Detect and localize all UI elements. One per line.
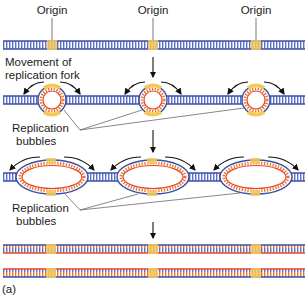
- large-bubble-3: [220, 158, 292, 196]
- large-bubbles: [3, 157, 305, 196]
- origin-marker: [148, 40, 158, 50]
- panel-label: (a): [2, 283, 16, 295]
- bubbles-label-1-line2: bubbles: [16, 135, 57, 147]
- daughter-duplex-1: [3, 244, 305, 254]
- bubbles-label-1-line1: Replication: [12, 122, 69, 134]
- parental-dna: [3, 40, 305, 50]
- bubble-3: [242, 85, 270, 114]
- movement-label-line1: Movement of: [5, 56, 72, 68]
- movement-label-line2: replication fork: [5, 69, 80, 81]
- origin-marker: [251, 40, 261, 50]
- bubble-2: [139, 85, 167, 114]
- origin-labels: Origin Origin Origin: [37, 4, 272, 40]
- origin-label-2: Origin: [138, 4, 169, 16]
- small-bubbles: [3, 82, 305, 115]
- daughter-duplex-2: [3, 268, 305, 278]
- bubble-1: [38, 85, 66, 114]
- large-bubble-2: [117, 158, 189, 196]
- origin-label-1: Origin: [37, 4, 68, 16]
- origin-label-3: Origin: [241, 4, 272, 16]
- origin-marker: [47, 40, 57, 50]
- bubbles-label-2-line2: bubbles: [16, 215, 57, 227]
- dna-replication-diagram: Origin Origin Origin Movement of replica…: [0, 0, 308, 297]
- large-bubble-1: [16, 158, 88, 196]
- bubbles-label-2-line1: Replication: [12, 202, 69, 214]
